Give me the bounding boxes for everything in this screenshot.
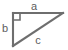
label-side-b: b <box>2 22 8 34</box>
right-triangle-figure: a b c <box>0 0 68 50</box>
label-side-c: c <box>35 34 41 46</box>
triangle-canvas: a b c <box>0 0 68 50</box>
label-side-a: a <box>31 0 38 12</box>
